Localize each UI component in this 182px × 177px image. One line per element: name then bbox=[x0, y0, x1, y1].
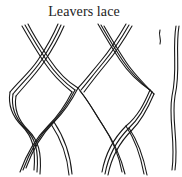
lace-edge-right bbox=[159, 26, 179, 170]
lace-mesh-right bbox=[78, 24, 154, 175]
lace-illustration bbox=[0, 0, 182, 177]
